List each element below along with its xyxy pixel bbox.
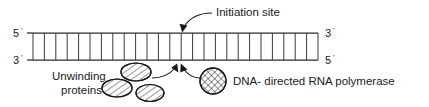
prime-mark-bottom-left: ' bbox=[21, 53, 23, 62]
pointer-arrows-to-initiation bbox=[152, 64, 200, 79]
initiation-site-callout: Initiation site bbox=[180, 6, 280, 33]
initiation-site-arrowhead bbox=[180, 24, 188, 33]
unwinding-protein-ellipse-3 bbox=[135, 83, 166, 103]
unwinding-proteins-group bbox=[101, 62, 166, 103]
prime-mark-top-right: ' bbox=[333, 26, 335, 35]
prime-mark-bottom-right: ' bbox=[333, 53, 335, 62]
label-5prime-bottom-right: 5 bbox=[325, 54, 331, 66]
unwinding-protein-pointer-line bbox=[152, 68, 175, 78]
initiation-site-label: Initiation site bbox=[216, 6, 280, 18]
dna-transcription-figure: 5 ' 3 ' 3 ' 5 ' Initiation site bbox=[0, 0, 429, 107]
rna-polymerase-label: DNA- directed RNA polymerase bbox=[233, 75, 395, 87]
dna-ladder bbox=[27, 33, 318, 60]
unwinding-proteins-label: Unwinding proteins bbox=[52, 70, 106, 96]
unwinding-protein-ellipse-1 bbox=[120, 62, 152, 82]
prime-mark-top-left: ' bbox=[21, 26, 23, 35]
dna-base-pair-rungs bbox=[33, 33, 318, 60]
unwinding-proteins-label-line2: proteins bbox=[61, 84, 102, 96]
label-3prime-top-right: 3 bbox=[325, 27, 331, 39]
unwinding-protein-ellipse-2 bbox=[101, 78, 133, 98]
polymerase-pointer-arrowhead bbox=[180, 64, 187, 73]
rna-polymerase-symbol bbox=[199, 67, 227, 95]
label-5prime-top-left: 5 bbox=[13, 27, 19, 39]
unwinding-proteins-label-line1: Unwinding bbox=[52, 70, 106, 82]
label-3prime-bottom-left: 3 bbox=[13, 54, 19, 66]
initiation-site-leader-line bbox=[184, 13, 212, 27]
